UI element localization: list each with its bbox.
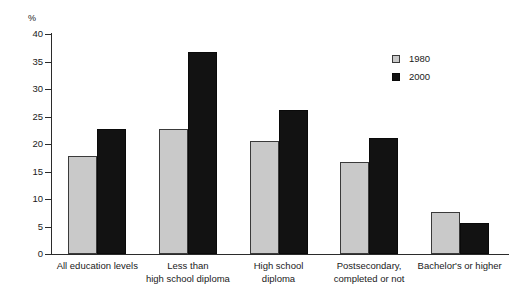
y-axis-tick-label: 35	[3, 57, 43, 67]
y-axis-tick	[45, 227, 52, 228]
bar-1980-2	[159, 129, 188, 254]
x-axis-line	[51, 254, 509, 255]
legend-item-1980: 1980	[392, 50, 482, 68]
bar-2000-5	[460, 223, 489, 254]
y-axis-tick	[45, 254, 52, 255]
x-axis-label-line1: Bachelor's or higher	[418, 260, 502, 271]
x-axis-label-line1: Less than	[167, 260, 208, 271]
legend-item-2000: 2000	[392, 68, 482, 86]
bar-2000-2	[188, 52, 217, 254]
x-axis-label-5: Bachelor's or higher	[405, 259, 515, 272]
y-axis-tick-label: 15	[3, 167, 43, 177]
y-axis-tick-label: 40	[3, 29, 43, 39]
x-axis-label-line1: Postsecondary,	[337, 260, 402, 271]
legend-label: 1980	[409, 54, 430, 64]
bar-2000-1	[97, 129, 126, 254]
bar-2000-4	[369, 138, 398, 254]
y-axis-tick-label: 5	[3, 222, 43, 232]
bar-2000-3	[279, 110, 308, 254]
y-axis-tick-label: 30	[3, 84, 43, 94]
chart-legend: 19802000	[392, 50, 482, 86]
x-axis-label-line2: completed or not	[314, 272, 424, 285]
x-axis-category-labels: All education levelsLess thanhigh school…	[0, 259, 517, 301]
y-axis-tick-labels: 0510152025303540	[0, 0, 43, 302]
bar-group	[68, 34, 126, 254]
bar-chart: % 0510152025303540 All education levelsL…	[0, 0, 517, 302]
bar-group	[340, 34, 398, 254]
y-axis-tick	[45, 144, 52, 145]
bar-1980-5	[431, 212, 460, 254]
y-axis-tick-label: 0	[3, 249, 43, 259]
x-axis-label-line1: High school	[254, 260, 304, 271]
bar-1980-4	[340, 162, 369, 254]
light-gray-square-icon	[392, 55, 400, 63]
y-axis-tick	[45, 34, 52, 35]
y-axis-tick	[45, 89, 52, 90]
y-axis-tick	[45, 172, 52, 173]
black-square-icon	[392, 73, 400, 81]
y-axis-tick-label: 20	[3, 139, 43, 149]
bar-1980-3	[250, 141, 279, 254]
y-axis-tick-label: 25	[3, 112, 43, 122]
legend-label: 2000	[409, 72, 430, 82]
y-axis-tick	[45, 199, 52, 200]
bar-group	[250, 34, 308, 254]
y-axis-tick	[45, 117, 52, 118]
y-axis-tick-label: 10	[3, 194, 43, 204]
y-axis-tick	[45, 62, 52, 63]
x-axis-label-line1: All education levels	[57, 260, 138, 271]
bar-group	[159, 34, 217, 254]
bar-1980-1	[68, 156, 97, 254]
